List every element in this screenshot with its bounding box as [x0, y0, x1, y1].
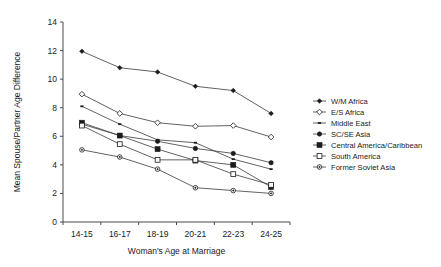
legend-item-label: Former Soviet Asia [331, 163, 396, 172]
marker-filled-circle [231, 151, 235, 155]
marker-open-square [317, 154, 322, 159]
legend-item-label: Central America/Caribbean [331, 141, 422, 150]
y-tick-label: 4 [52, 160, 57, 170]
marker-filled-diamond [193, 84, 198, 89]
legend-item-label: E/S Africa [331, 108, 365, 117]
marker-filled-diamond [317, 99, 322, 104]
y-tick-label: 14 [48, 17, 58, 27]
marker-open-square [269, 182, 274, 187]
series-line [82, 150, 271, 194]
marker-filled-circle [193, 146, 197, 150]
y-tick-label: 0 [52, 217, 57, 227]
marker-open-circle-dot [319, 166, 320, 167]
legend-item-3[interactable]: SC/SE Asia [313, 130, 371, 139]
x-tick-label: 22-23 [222, 229, 244, 239]
marker-open-square [80, 123, 85, 128]
chart-figure: 0246810121414-1516-1718-1920-2122-2324-2… [0, 0, 441, 267]
marker-filled-square [231, 162, 236, 167]
marker-open-square [231, 172, 236, 177]
y-tick-label: 2 [52, 188, 57, 198]
line-chart: 0246810121414-1516-1718-1920-2122-2324-2… [0, 0, 441, 267]
x-tick-label: 16-17 [109, 229, 131, 239]
marker-open-diamond [155, 120, 161, 126]
marker-open-circle-dot [195, 187, 196, 188]
series-3 [80, 122, 274, 165]
marker-filled-circle [269, 161, 273, 165]
legend-item-4[interactable]: Central America/Caribbean [313, 141, 422, 150]
series-line [82, 94, 271, 137]
x-tick-label: 14-15 [71, 229, 93, 239]
legend-item-2[interactable]: Middle East [313, 119, 372, 128]
marker-open-circle-dot [270, 193, 271, 194]
marker-filled-diamond [80, 49, 85, 54]
marker-open-circle-dot [233, 190, 234, 191]
x-axis-title: Woman's Age at Marriage [128, 246, 226, 256]
marker-filled-circle [317, 132, 321, 136]
series-line [82, 124, 271, 163]
y-axis-title: Mean Spouse/Partner Age Difference [12, 51, 22, 192]
x-tick-label: 24-25 [260, 229, 282, 239]
marker-filled-diamond [231, 88, 236, 93]
marker-open-circle-dot [81, 149, 82, 150]
legend-item-label: South America [331, 152, 381, 161]
x-tick-label: 20-21 [185, 229, 207, 239]
legend-item-label: W/M Africa [331, 97, 368, 106]
marker-open-diamond [79, 91, 85, 97]
legend-item-label: Middle East [331, 119, 372, 128]
y-tick-label: 6 [52, 131, 57, 141]
x-tick-label: 18-19 [147, 229, 169, 239]
marker-open-square [155, 157, 160, 162]
marker-filled-diamond [117, 65, 122, 70]
marker-open-square [193, 157, 198, 162]
series-line [82, 51, 271, 113]
legend-item-1[interactable]: E/S Africa [313, 108, 365, 117]
marker-open-diamond [317, 109, 323, 115]
marker-filled-circle [155, 139, 159, 143]
marker-open-circle-dot [119, 156, 120, 157]
marker-filled-square [117, 133, 122, 138]
marker-filled-square [317, 143, 322, 148]
y-tick-label: 8 [52, 103, 57, 113]
marker-filled-square [155, 147, 160, 152]
marker-open-diamond [117, 111, 123, 117]
legend-item-6[interactable]: Former Soviet Asia [313, 163, 396, 172]
y-tick-label: 10 [48, 74, 58, 84]
marker-open-circle-dot [157, 168, 158, 169]
marker-open-square [117, 142, 122, 147]
series-0 [80, 49, 274, 116]
marker-filled-diamond [155, 70, 160, 75]
marker-open-diamond [230, 123, 236, 129]
marker-open-diamond [193, 123, 199, 129]
legend-item-label: SC/SE Asia [331, 130, 371, 139]
legend-item-5[interactable]: South America [313, 152, 381, 161]
marker-filled-diamond [269, 111, 274, 116]
marker-open-diamond [268, 134, 274, 140]
legend-item-0[interactable]: W/M Africa [313, 97, 368, 106]
y-tick-label: 12 [48, 46, 58, 56]
